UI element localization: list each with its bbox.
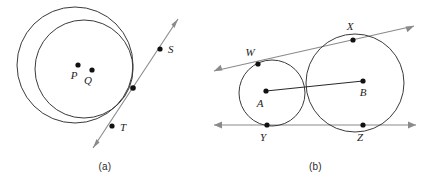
label-y: Y [260,131,268,143]
point-x [350,37,355,42]
center-a [263,88,268,93]
inner-circle [35,20,133,118]
label-s: S [168,43,174,55]
panel-b: W X A B Y Z (b) [210,0,421,191]
label-q: Q [84,74,92,86]
label-a: A [256,97,264,109]
panel-a-drawing: P Q S T [0,0,210,160]
panel-a: P Q S T (a) [0,0,210,191]
caption-a: (a) [0,161,210,172]
label-x: X [346,20,355,32]
arrowhead-right-lower-icon [408,122,416,129]
circle-b [306,34,404,132]
label-t: T [120,121,127,133]
label-b: B [360,86,367,98]
point-z [360,122,365,127]
circle-a [239,60,305,126]
arrowhead-left-upper-icon [214,65,223,71]
upper-tangent-line-wx [214,26,414,71]
lower-tangent-line-yz [214,122,416,129]
tangency-point [130,85,136,91]
label-w: W [245,46,255,58]
caption-b: (b) [210,161,421,172]
arrowhead-right-upper-icon [406,26,415,32]
point-q [89,67,94,72]
arrowhead-left-lower-icon [214,122,222,129]
segment-ab [266,81,363,91]
panel-b-drawing: W X A B Y Z [210,0,421,160]
point-t [109,123,114,128]
label-p: P [70,69,78,81]
point-y [264,122,269,127]
tangent-line-st [93,19,178,148]
label-z: Z [357,131,364,143]
center-b [360,78,365,83]
point-w [255,61,260,66]
outer-circle [17,7,133,123]
geometry-figure: P Q S T (a) [0,0,421,191]
point-p [75,62,80,67]
point-s [157,46,162,51]
